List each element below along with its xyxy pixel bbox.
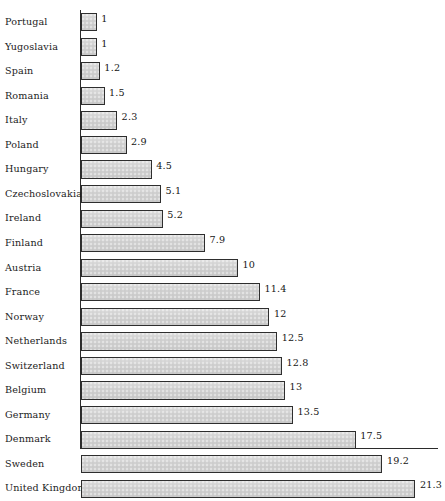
bar-rect — [81, 259, 238, 277]
bar-category-label: Switzerland — [5, 354, 77, 379]
bar-row: Romania1.5 — [0, 84, 445, 109]
bar-row: Belgium13 — [0, 378, 445, 403]
bar-value-label: 17.5 — [360, 427, 382, 445]
bar-rect — [81, 381, 285, 399]
bar-value-label: 7.9 — [210, 231, 226, 249]
bar-value-label: 5.2 — [167, 206, 183, 224]
bar-category-label: Netherlands — [5, 329, 77, 354]
bar-rect — [81, 455, 382, 473]
bar-row: Yugoslavia1 — [0, 35, 445, 60]
bar-rect — [81, 210, 163, 228]
bar-category-label: France — [5, 280, 77, 305]
bar-row: Ireland5.2 — [0, 206, 445, 231]
bar-row: United Kingdom21.3 — [0, 476, 445, 501]
bar-value-label: 12.8 — [286, 354, 308, 372]
bar-row: Portugal1 — [0, 10, 445, 35]
bar-value-label: 19.2 — [387, 452, 409, 470]
bar-track — [81, 210, 163, 228]
bar-category-label: Belgium — [5, 378, 77, 403]
bar-value-label: 1 — [101, 10, 107, 28]
bar-track — [81, 111, 117, 129]
bar-category-label: Finland — [5, 231, 77, 256]
bar-value-label: 5.1 — [166, 182, 182, 200]
bar-row: Finland7.9 — [0, 231, 445, 256]
bar-category-label: Czechoslovakia — [5, 182, 77, 207]
bar-category-label: Denmark — [5, 427, 77, 452]
bar-row: Switzerland12.8 — [0, 354, 445, 379]
bar-row: Hungary4.5 — [0, 157, 445, 182]
bar-track — [81, 406, 293, 424]
bar-track — [81, 283, 260, 301]
plot-area: Portugal1Yugoslavia1Spain1.2Romania1.5It… — [0, 8, 445, 450]
bar-row: Poland2.9 — [0, 133, 445, 158]
bar-track — [81, 87, 105, 105]
bar-category-label: United Kingdom — [5, 476, 77, 501]
bar-track — [81, 234, 205, 252]
bar-rect — [81, 136, 127, 154]
bar-row: Austria10 — [0, 256, 445, 281]
bar-category-label: Ireland — [5, 206, 77, 231]
bar-rect — [81, 38, 97, 56]
bar-row: Sweden19.2 — [0, 452, 445, 477]
bar-track — [81, 136, 127, 154]
bar-row: Italy2.3 — [0, 108, 445, 133]
bar-track — [81, 381, 285, 399]
bar-rect — [81, 87, 105, 105]
bar-track — [81, 308, 269, 326]
bar-category-label: Italy — [5, 108, 77, 133]
chart-title — [118, 0, 388, 4]
bar-track — [81, 185, 161, 203]
bar-rect — [81, 13, 97, 31]
bar-rect — [81, 111, 117, 129]
bar-row: Denmark17.5 — [0, 427, 445, 452]
bar-value-label: 1.2 — [104, 59, 120, 77]
bar-rect — [81, 283, 260, 301]
bar-row: Netherlands12.5 — [0, 329, 445, 354]
bar-value-label: 1.5 — [109, 84, 125, 102]
bar-track — [81, 455, 382, 473]
bar-category-label: Yugoslavia — [5, 35, 77, 60]
bar-track — [81, 13, 97, 31]
bar-value-label: 1 — [101, 35, 107, 53]
bar-rect — [81, 431, 356, 449]
bar-track — [81, 480, 415, 498]
bar-row: Germany13.5 — [0, 403, 445, 428]
bar-rect — [81, 160, 152, 178]
bar-rect — [81, 480, 415, 498]
bar-value-label: 21.3 — [420, 476, 442, 494]
bar-rect — [81, 332, 277, 350]
bar-value-label: 4.5 — [156, 157, 172, 175]
bar-rect — [81, 308, 269, 326]
bar-value-label: 10 — [243, 256, 256, 274]
bar-value-label: 2.9 — [131, 133, 147, 151]
bar-category-label: Poland — [5, 133, 77, 158]
bar-category-label: Portugal — [5, 10, 77, 35]
bar-value-label: 2.3 — [122, 108, 138, 126]
bar-row: Czechoslovakia5.1 — [0, 182, 445, 207]
bar-category-label: Germany — [5, 403, 77, 428]
bar-category-label: Norway — [5, 305, 77, 330]
bar-track — [81, 357, 282, 375]
bar-track — [81, 38, 97, 56]
bar-track — [81, 332, 277, 350]
bar-value-label: 13.5 — [297, 403, 319, 421]
bar-rect — [81, 62, 100, 80]
bar-category-label: Austria — [5, 256, 77, 281]
bar-value-label: 11.4 — [264, 280, 286, 298]
bar-value-label: 13 — [290, 378, 303, 396]
bar-category-label: Sweden — [5, 452, 77, 477]
bar-value-label: 12 — [274, 305, 287, 323]
bar-value-label: 12.5 — [282, 329, 304, 347]
bar-category-label: Hungary — [5, 157, 77, 182]
bar-row: France11.4 — [0, 280, 445, 305]
bar-track — [81, 160, 152, 178]
bar-category-label: Spain — [5, 59, 77, 84]
bar-track — [81, 431, 356, 449]
bar-rect — [81, 357, 282, 375]
bar-rect — [81, 185, 161, 203]
bar-row: Norway12 — [0, 305, 445, 330]
bar-rect — [81, 406, 293, 424]
bar-track — [81, 259, 238, 277]
bar-track — [81, 62, 100, 80]
